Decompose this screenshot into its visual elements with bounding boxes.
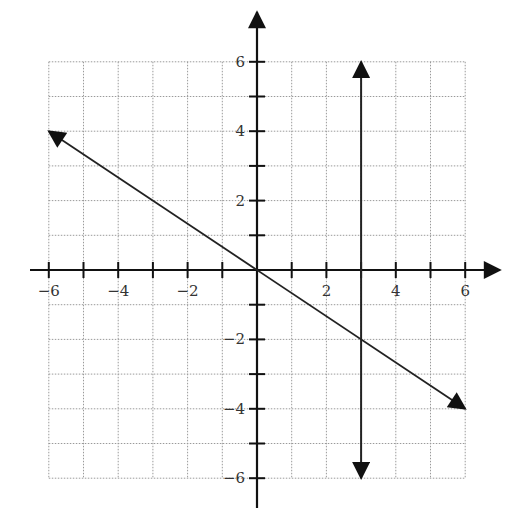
- x-tick-label: −2: [177, 282, 199, 300]
- y-tick-label: 6: [235, 53, 245, 71]
- x-tick-label: −4: [107, 282, 129, 300]
- x-tick-label: 4: [391, 282, 401, 300]
- y-tick-label: 2: [235, 192, 245, 210]
- x-tick-label: 6: [460, 282, 470, 300]
- y-tick-label: 4: [235, 122, 245, 140]
- x-tick-label: −6: [38, 282, 60, 300]
- coordinate-plane: −6−4−2246642−2−4−6: [0, 0, 522, 529]
- x-tick-label: 2: [322, 282, 332, 300]
- y-tick-label: −2: [223, 330, 245, 348]
- y-tick-label: −6: [223, 469, 245, 487]
- y-tick-label: −4: [223, 400, 245, 418]
- axes: [30, 12, 500, 508]
